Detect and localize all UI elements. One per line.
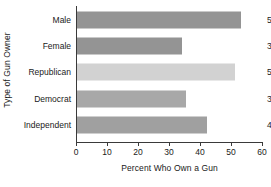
x-axis-tick bbox=[231, 142, 232, 146]
bar-row: Female 34 bbox=[76, 33, 262, 59]
x-axis-tick-label: 20 bbox=[133, 147, 142, 157]
x-axis-tick bbox=[107, 142, 108, 146]
y-axis-title-text: Type of Gun Owner bbox=[2, 32, 12, 107]
category-label: Republican bbox=[28, 67, 71, 77]
x-axis-tick-label: 60 bbox=[257, 147, 266, 157]
x-axis-tick bbox=[262, 142, 263, 146]
bar-value-label: 53 bbox=[267, 15, 271, 25]
bar bbox=[77, 12, 241, 29]
plot-area: Male 53 Female 34 Republican 51 Democrat… bbox=[76, 7, 262, 138]
bar bbox=[77, 90, 186, 107]
bar bbox=[77, 64, 235, 81]
x-axis-tick-label: 40 bbox=[195, 147, 204, 157]
bar-value-label: 35 bbox=[267, 94, 271, 104]
x-axis-tick bbox=[76, 142, 77, 146]
y-axis-title: Type of Gun Owner bbox=[0, 0, 14, 140]
bar bbox=[77, 38, 182, 55]
x-axis-tick bbox=[169, 142, 170, 146]
x-axis-tick bbox=[200, 142, 201, 146]
x-axis-tick-label: 0 bbox=[74, 147, 79, 157]
bar-chart: Type of Gun Owner Male 53 Female 34 Repu… bbox=[0, 0, 271, 187]
x-axis-tick-label: 10 bbox=[102, 147, 111, 157]
category-label: Independent bbox=[24, 120, 71, 130]
bar-value-label: 34 bbox=[267, 41, 271, 51]
category-label: Female bbox=[43, 41, 71, 51]
bar-row: Democrat 35 bbox=[76, 86, 262, 112]
x-axis-tick-label: 30 bbox=[164, 147, 173, 157]
bar-value-label: 51 bbox=[267, 67, 271, 77]
bar bbox=[77, 116, 207, 133]
category-label: Male bbox=[53, 15, 71, 25]
x-axis-tick bbox=[138, 142, 139, 146]
x-axis-tick-label: 50 bbox=[226, 147, 235, 157]
bar-row: Republican 51 bbox=[76, 59, 262, 85]
x-axis-title: Percent Who Own a Gun bbox=[76, 163, 263, 173]
bar-row: Male 53 bbox=[76, 7, 262, 33]
category-label: Democrat bbox=[34, 94, 71, 104]
bar-row: Independent 42 bbox=[76, 112, 262, 138]
bar-value-label: 42 bbox=[267, 120, 271, 130]
